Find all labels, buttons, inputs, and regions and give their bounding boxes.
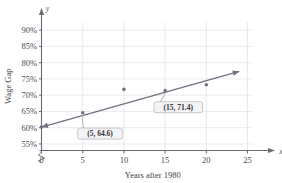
callout-label: (5, 64.6) [87,129,113,138]
data-point [205,83,209,87]
y-axis-tick-label: 60% [21,123,37,133]
x-axis-tick-label: 20 [202,155,211,165]
x-axis-tick-label: 5 [81,155,85,165]
x-axis-arrow [268,148,275,153]
y-axis-arrow [39,8,44,15]
y-axis-tick-label: 75% [21,74,37,84]
x-axis-title: Years after 1980 [125,170,181,180]
annotation-callouts: (5, 64.6)(15, 71.4) [78,93,203,139]
data-point [122,88,126,92]
trend-line-segment [42,71,240,127]
y-axis-tick-label: 90% [21,25,37,35]
y-axis-title: Wage Gap [3,69,13,104]
y-axis-tick-label: 85% [21,41,37,51]
y-axis-tick-label: 80% [21,58,37,68]
y-axis-tick-label: 65% [21,106,37,116]
data-point [163,89,167,93]
chart-canvas: 55%60%65%70%75%80%85%90% 0510152025 (5, … [0,0,282,183]
x-axis-tick-label: 15 [161,155,170,165]
grid-lines [42,22,253,151]
callout-label: (15, 71.4) [164,103,194,112]
data-point [81,111,85,115]
x-axis-tick-label: 0 [39,155,43,165]
y-axis: 55%60%65%70%75%80%85%90% [21,8,44,163]
wage-gap-scatter-chart: 55%60%65%70%75%80%85%90% 0510152025 (5, … [0,0,282,183]
callout-leader-line [160,93,165,102]
x-axis-tick-label: 25 [243,155,252,165]
x-axis: 0510152025 [39,148,275,165]
x-axis-variable-name: x [278,147,282,156]
trend-line-arrow [232,71,239,76]
x-axis-tick-label: 10 [120,155,129,165]
y-axis-tick-label: 70% [21,90,37,100]
y-axis-tick-label: 55% [21,139,37,149]
data-point [40,125,44,129]
y-axis-variable-name: y [45,4,50,13]
